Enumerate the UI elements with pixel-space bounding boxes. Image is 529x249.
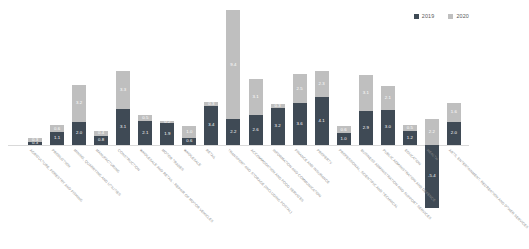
x-tick-label: WHOLESALE <box>183 149 202 168</box>
x-tick-label: MOTOR TRADES <box>161 149 184 172</box>
x-tick-label: PRODUCTION <box>50 149 70 169</box>
x-tick-label: PROPERTY <box>315 149 332 166</box>
x-tick-label: MINING, QUARRYING AND UTILITIES <box>73 149 122 198</box>
x-tick-label: ARTS, ENTERTAINMENT, RECREATION AND OTHE… <box>447 149 528 230</box>
x-tick-label: RETAIL <box>205 149 217 161</box>
x-tick-label: HEALTH <box>425 149 438 162</box>
x-tick-label: CONSTRUCTION <box>117 149 141 173</box>
x-tick-label: EDUCATION <box>403 149 421 167</box>
